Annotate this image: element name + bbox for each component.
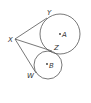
center-point-A [59,33,61,35]
label-B: B [49,62,54,70]
label-A: A [61,31,67,39]
label-Y: Y [47,9,52,17]
circle-B [34,51,62,79]
label-W: W [27,72,35,80]
label-X: X [7,36,13,44]
segment-XZ [15,39,52,51]
segment-XW [15,39,36,73]
geometry-diagram: X Y Z W A B [0,0,91,103]
center-point-B [46,63,48,65]
label-Z: Z [53,44,59,52]
segment-XY [15,18,47,39]
